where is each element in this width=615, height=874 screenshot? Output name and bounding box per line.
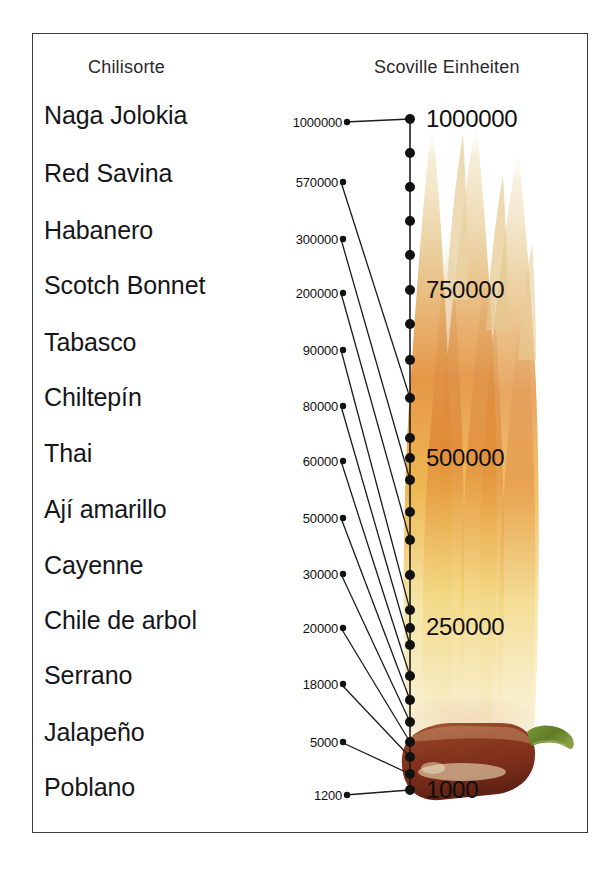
axis-tick-label-1000000: 1000000 xyxy=(426,105,517,133)
chili-name-thai: Thai xyxy=(44,439,92,468)
chili-name-serrano: Serrano xyxy=(44,661,132,690)
leader-lines xyxy=(341,119,410,795)
scoville-value-red-savina: 570000 xyxy=(228,175,338,190)
scoville-value-cayenne: 30000 xyxy=(228,567,338,582)
chili-name-cayenne: Cayenne xyxy=(44,551,143,580)
scoville-value-tabasco: 90000 xyxy=(228,343,338,358)
scoville-value-jalapeno: 5000 xyxy=(228,735,338,750)
scoville-value-aji-amarillo: 50000 xyxy=(228,511,338,526)
scoville-value-chiltepin: 80000 xyxy=(228,399,338,414)
chili-name-aji-amarillo: Ají amarillo xyxy=(44,495,166,524)
chili-name-tabasco: Tabasco xyxy=(44,328,136,357)
axis-tick-label-500000: 500000 xyxy=(426,444,504,472)
scoville-value-poblano: 1200 xyxy=(232,788,342,803)
chili-name-chiltepin: Chiltepín xyxy=(44,383,142,412)
chili-name-chile-de-arbol: Chile de arbol xyxy=(44,606,197,635)
scoville-value-scotch-bonnet: 200000 xyxy=(228,286,338,301)
chili-name-red-savina: Red Savina xyxy=(44,159,172,188)
scoville-value-chile-de-arbol: 20000 xyxy=(228,621,338,636)
scoville-value-naga-jolokia: 1000000 xyxy=(232,115,342,130)
chili-name-naga-jolokia: Naga Jolokia xyxy=(44,101,187,130)
chili-name-habanero: Habanero xyxy=(44,216,153,245)
scoville-value-serrano: 18000 xyxy=(228,677,338,692)
chili-name-scotch-bonnet: Scotch Bonnet xyxy=(44,271,205,300)
chili-name-jalapeno: Jalapeño xyxy=(44,718,145,747)
axis-tick-label-750000: 750000 xyxy=(426,276,504,304)
scoville-value-thai: 60000 xyxy=(228,454,338,469)
chili-name-poblano: Poblano xyxy=(44,773,135,802)
value-label-dots xyxy=(340,119,350,798)
axis-tick-label-250000: 250000 xyxy=(426,613,504,641)
axis-tick-label-1000: 1000 xyxy=(426,776,478,804)
column-header-scoville: Scoville Einheiten xyxy=(374,57,520,78)
scoville-value-habanero: 300000 xyxy=(228,232,338,247)
column-header-chilisorte: Chilisorte xyxy=(88,57,165,78)
